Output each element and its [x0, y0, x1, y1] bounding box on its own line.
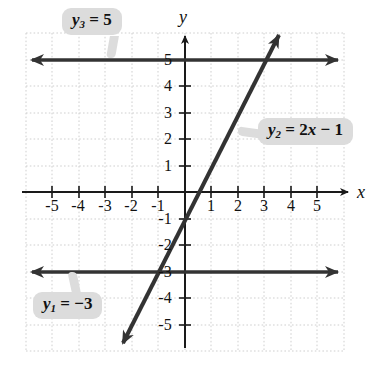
x-tick-label--5: -5	[40, 198, 64, 214]
x-axis-name: x	[357, 183, 365, 201]
label-y3-value: 5	[103, 10, 112, 29]
x-tick-label-5: 5	[308, 198, 326, 214]
x-tick-label-1: 1	[202, 198, 220, 214]
y-tick-label-5: 5	[160, 52, 176, 68]
label-y2-equals: =	[285, 120, 295, 139]
label-y2-constant: 1	[334, 120, 343, 139]
label-y1-name: y	[43, 294, 51, 313]
label-y3-equals: =	[89, 10, 99, 29]
y-axis-name: y	[179, 8, 187, 26]
y-tick-label--5: -5	[154, 317, 176, 333]
label-y2-variable: x	[308, 120, 317, 139]
x-tick-label-2: 2	[229, 198, 247, 214]
label-y2-coefficient: 2	[299, 120, 308, 139]
label-y3-name: y	[72, 10, 80, 29]
x-tick-label--4: -4	[66, 198, 90, 214]
y-tick-label-4: 4	[160, 78, 176, 94]
y-tick-label-1: 1	[160, 158, 176, 174]
label-y1: y1 = −3	[33, 292, 102, 319]
label-y1-subscript: 1	[51, 302, 57, 314]
label-y1-value: −3	[74, 294, 92, 313]
label-y3-subscript: 3	[80, 18, 86, 30]
label-y1-equals: =	[60, 294, 70, 313]
y-tick-label--3: -3	[154, 264, 176, 280]
x-tick-label--3: -3	[93, 198, 117, 214]
y-tick-label--4: -4	[154, 290, 176, 306]
y-tick-label-3: 3	[160, 105, 176, 121]
label-y2-name: y	[268, 120, 276, 139]
line-y2	[123, 35, 279, 343]
graph-figure: -5 -4 -3 -2 -1 1 2 3 4 5 5 4 3 2 1 -1 -2…	[0, 0, 390, 365]
y-tick-label-2: 2	[160, 131, 176, 147]
y-tick-label--1: -1	[154, 211, 176, 227]
x-tick-label-4: 4	[282, 198, 300, 214]
label-y2-operator: −	[320, 120, 330, 139]
label-y3: y3 = 5	[62, 8, 122, 35]
label-y2: y2 = 2x − 1	[258, 118, 353, 145]
x-tick-label--2: -2	[119, 198, 143, 214]
x-tick-label-3: 3	[255, 198, 273, 214]
label-y2-subscript: 2	[276, 128, 282, 140]
y-tick-label--2: -2	[154, 237, 176, 253]
